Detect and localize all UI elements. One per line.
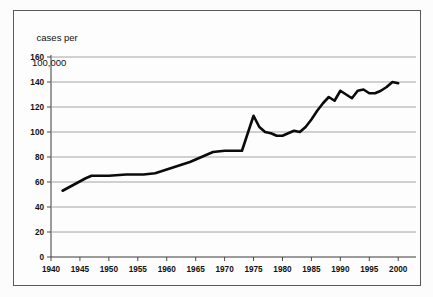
x-tick-label-1965: 1965	[187, 265, 206, 274]
x-tick-label-1940: 1940	[42, 265, 61, 274]
y-tick-label-140: 140	[30, 78, 44, 87]
x-tick-label-1945: 1945	[71, 265, 90, 274]
x-tick-label-1950: 1950	[100, 265, 119, 274]
y-tick-label-40: 40	[35, 203, 45, 212]
y-tick-label-160: 160	[30, 53, 44, 62]
x-tick-label-1970: 1970	[215, 265, 234, 274]
x-tick-label-1975: 1975	[244, 265, 263, 274]
x-tick-label-2000: 2000	[389, 265, 408, 274]
x-tick-label-1985: 1985	[302, 265, 321, 274]
x-tick-label-1980: 1980	[273, 265, 292, 274]
y-tick-label-20: 20	[35, 228, 45, 237]
x-tick-label-1995: 1995	[360, 265, 379, 274]
x-tick-label-1960: 1960	[158, 265, 177, 274]
y-tick-label-80: 80	[35, 153, 45, 162]
y-tick-label-120: 120	[30, 103, 44, 112]
y-tick-label-100: 100	[30, 128, 44, 137]
x-tick-label-1990: 1990	[331, 265, 350, 274]
line-chart-plot: 0204060801001201401601940194519501955196…	[0, 0, 433, 297]
data-line-series-0	[63, 82, 399, 191]
chart-figure: cases per 100,000 0204060801001201401601…	[0, 0, 433, 297]
y-tick-label-0: 0	[39, 253, 44, 262]
y-tick-label-60: 60	[35, 178, 45, 187]
x-tick-label-1955: 1955	[129, 265, 148, 274]
